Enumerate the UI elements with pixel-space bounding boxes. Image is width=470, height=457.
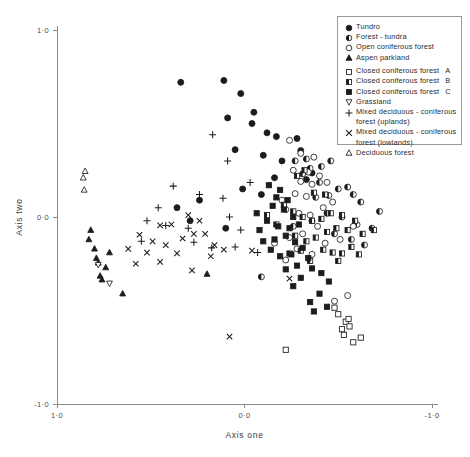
- legend-item-suffix: A: [445, 66, 450, 75]
- series-filled-circle: [174, 77, 315, 231]
- legend-item-label: Tundro: [356, 22, 380, 32]
- data-point: [345, 184, 351, 190]
- data-point: [186, 212, 191, 217]
- data-point: [317, 179, 323, 185]
- data-point: [187, 218, 193, 224]
- legend-item-label: Closed coniferous forestA: [356, 66, 450, 76]
- legend-item[interactable]: Closed coniferous forestA: [343, 66, 457, 76]
- data-point: [272, 175, 278, 181]
- data-point: [80, 175, 86, 181]
- data-point: [197, 197, 203, 203]
- data-point: [133, 261, 138, 266]
- legend-item[interactable]: Grassland: [343, 97, 457, 107]
- legend-item-label-continued: forest (uplands): [343, 117, 457, 127]
- legend-item-suffix: B: [445, 76, 450, 85]
- series-open-up-triangle: [80, 168, 88, 192]
- data-point: [221, 247, 226, 252]
- legend-item[interactable]: Mixed deciduous - coniferous: [343, 127, 457, 137]
- data-point: [319, 216, 324, 221]
- legend-item[interactable]: Closed coniferous forestB: [343, 76, 457, 86]
- data-point: [298, 178, 304, 184]
- data-point: [174, 205, 180, 211]
- data-point: [254, 211, 259, 216]
- data-point: [348, 236, 354, 242]
- data-point: [291, 209, 296, 214]
- series-filled-square: [254, 183, 331, 314]
- data-point: [169, 222, 174, 227]
- series-filled-triangle: [86, 227, 210, 296]
- legend-item-label: Deciduous forest: [356, 148, 414, 158]
- data-point: [163, 242, 168, 247]
- x-axis-title: Axis one: [225, 430, 263, 440]
- data-point: [298, 150, 304, 156]
- data-point: [307, 212, 313, 218]
- data-point: [283, 257, 289, 263]
- data-point: [309, 266, 314, 271]
- series-open-square: [283, 305, 363, 352]
- filled-square-icon: [343, 87, 356, 97]
- data-point: [287, 226, 292, 231]
- plus-icon: [343, 107, 356, 117]
- data-point: [278, 254, 283, 259]
- half-circle-icon: [343, 32, 356, 42]
- data-point: [293, 233, 298, 238]
- legend-item-label: Aspen parkland: [356, 53, 409, 63]
- legend-item[interactable]: Aspen parkland: [343, 53, 457, 63]
- legend-item[interactable]: Open coniferous forest: [343, 42, 457, 52]
- data-point: [88, 227, 94, 233]
- data-point: [138, 238, 145, 245]
- data-point: [300, 231, 306, 237]
- data-point: [309, 181, 315, 187]
- data-point: [232, 243, 239, 250]
- chart-legend: TundroForest - tundraOpen coniferous for…: [337, 16, 462, 145]
- data-point: [311, 309, 316, 314]
- data-point: [318, 164, 324, 170]
- legend-item[interactable]: Deciduous forest: [343, 148, 457, 158]
- legend-item[interactable]: Tundro: [343, 22, 457, 32]
- data-point: [254, 249, 261, 256]
- data-point: [332, 298, 338, 304]
- data-point: [82, 168, 88, 174]
- data-point: [341, 332, 346, 337]
- data-point: [317, 291, 322, 296]
- data-point: [283, 347, 288, 352]
- data-point: [336, 258, 341, 263]
- data-point: [350, 223, 356, 229]
- legend-item[interactable]: Mixed deciduous - coniferous: [343, 107, 457, 117]
- data-point: [258, 192, 264, 198]
- data-point: [197, 218, 202, 223]
- data-point: [332, 231, 338, 237]
- legend-item-label: Closed coniferous forestC: [356, 87, 451, 97]
- data-point: [294, 263, 299, 268]
- legend-item[interactable]: Forest - tundra: [343, 32, 457, 42]
- data-point: [339, 213, 344, 218]
- data-point: [303, 156, 309, 162]
- data-point: [303, 193, 309, 199]
- half-square-icon: [343, 76, 356, 86]
- filled-circle-icon: [343, 22, 356, 32]
- legend-item[interactable]: Closed coniferous forestC: [343, 87, 457, 97]
- data-point: [315, 223, 321, 229]
- data-point: [279, 158, 285, 164]
- x-tick-label: 0·0: [238, 411, 250, 420]
- data-point: [335, 186, 341, 192]
- data-point: [362, 242, 368, 248]
- data-point: [346, 316, 351, 321]
- y-axis-title: Axis two: [14, 198, 24, 235]
- data-point: [308, 299, 313, 304]
- data-point: [272, 237, 277, 242]
- series-plus: [138, 131, 261, 256]
- legend-item-suffix: C: [445, 87, 451, 96]
- data-point: [191, 231, 196, 236]
- data-point: [377, 208, 383, 214]
- data-point: [251, 109, 257, 115]
- data-point: [157, 259, 162, 264]
- legend-item-label: Mixed deciduous - coniferous: [356, 107, 456, 117]
- filled-triangle-icon: [343, 53, 356, 63]
- data-point: [296, 222, 301, 227]
- data-point: [137, 232, 142, 237]
- legend-item-label: Grassland: [356, 97, 391, 107]
- y-tick-label: 1·0: [37, 26, 49, 35]
- data-point: [264, 213, 269, 218]
- data-point: [304, 239, 309, 244]
